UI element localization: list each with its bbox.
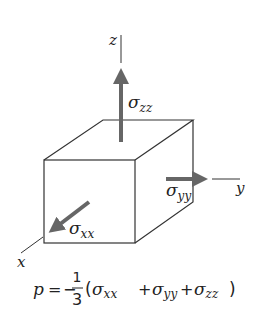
formula-plus-1: + [138, 280, 151, 299]
x-axis-line [21, 237, 43, 253]
sigma-xx-label: σxx [69, 218, 94, 241]
pressure-formula: p = − 1 3 ( σxx + σyy + σzz ) [33, 269, 236, 309]
cube-side-face [135, 120, 193, 243]
formula-plus-2: + [180, 280, 193, 299]
formula-lhs: p [33, 279, 44, 299]
formula-open-paren: ( [85, 279, 92, 299]
x-axis-label: x [17, 253, 26, 271]
sigma-yy-label: σyy [166, 180, 191, 203]
formula-close-paren: ) [229, 279, 236, 299]
z-axis-label: z [108, 31, 117, 49]
formula-numerator: 1 [73, 269, 82, 285]
formula-term-yy: σyy [152, 279, 177, 301]
formula-term-xx: σxx [92, 279, 117, 301]
formula-equals: = [48, 280, 61, 299]
stress-cube-diagram: z σzz y σyy x σxx p = − 1 3 ( σxx + σyy [0, 0, 263, 322]
sigma-zz-label: σzz [128, 92, 153, 115]
formula-denominator: 3 [72, 290, 82, 309]
y-axis-label: y [235, 179, 245, 197]
cube-top-face [44, 120, 193, 160]
formula-term-zz: σzz [194, 279, 219, 301]
